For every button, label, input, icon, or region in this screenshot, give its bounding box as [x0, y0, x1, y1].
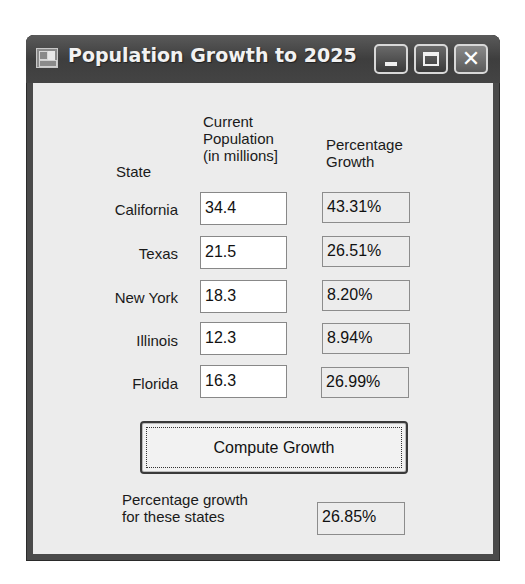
state-label-illinois: Illinois — [78, 332, 178, 349]
growth-output-illinois: 8.94% — [322, 323, 410, 354]
compute-growth-button[interactable]: Compute Growth — [140, 421, 408, 474]
maximize-icon — [423, 52, 439, 66]
state-label-new-york: New York — [78, 289, 178, 306]
close-button[interactable]: ✕ — [454, 44, 488, 74]
summary-growth-output: 26.85% — [317, 502, 405, 535]
header-population-line2: Population — [203, 130, 274, 147]
population-input-california[interactable]: 34.4 — [200, 192, 287, 225]
header-growth-line2: Growth — [326, 153, 374, 170]
form-app-icon[interactable] — [36, 48, 58, 68]
population-input-illinois[interactable]: 12.3 — [200, 322, 287, 355]
state-label-california: California — [78, 201, 178, 218]
state-label-texas: Texas — [78, 245, 178, 262]
form-client-area: State Current Population (in millions] P… — [33, 83, 493, 554]
population-input-texas[interactable]: 21.5 — [200, 236, 287, 269]
header-population-line1: Current — [203, 113, 253, 130]
header-population-line3: (in millions] — [203, 147, 278, 164]
header-state: State — [116, 163, 151, 180]
minimize-button[interactable] — [374, 44, 408, 74]
title-bar[interactable]: Population Growth to 2025 ✕ — [26, 35, 500, 83]
growth-output-california: 43.31% — [322, 192, 410, 223]
close-icon: ✕ — [456, 46, 486, 72]
population-input-florida[interactable]: 16.3 — [200, 365, 287, 398]
summary-label-line1: Percentage growth — [122, 491, 248, 508]
minimize-icon — [385, 62, 397, 66]
maximize-button[interactable] — [414, 44, 448, 74]
growth-output-florida: 26.99% — [321, 367, 409, 398]
compute-growth-label: Compute Growth — [142, 439, 406, 457]
window-title: Population Growth to 2025 — [68, 44, 357, 66]
header-growth-line1: Percentage — [326, 136, 403, 153]
growth-output-texas: 26.51% — [322, 236, 410, 267]
summary-label-line2: for these states — [122, 508, 225, 525]
state-label-florida: Florida — [78, 375, 178, 392]
app-window: Population Growth to 2025 ✕ State Curren… — [26, 35, 500, 561]
population-input-new-york[interactable]: 18.3 — [200, 280, 287, 313]
growth-output-new-york: 8.20% — [322, 280, 410, 311]
